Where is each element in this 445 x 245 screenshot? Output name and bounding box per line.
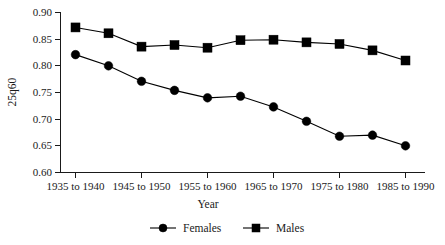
data-point-circle-marker[interactable] — [170, 86, 179, 95]
x-tick-label: 1955 to 1960 — [178, 180, 237, 192]
data-point-circle-marker[interactable] — [302, 117, 311, 126]
data-point-square-marker[interactable] — [170, 41, 179, 50]
legend-label-males: Males — [276, 222, 305, 234]
data-point-circle-marker[interactable] — [137, 77, 146, 86]
legend-circle-marker-icon — [159, 224, 167, 232]
data-point-square-marker[interactable] — [368, 46, 377, 55]
data-point-circle-marker[interactable] — [335, 132, 344, 141]
data-point-circle-marker[interactable] — [236, 92, 245, 101]
y-tick-label: 0.65 — [33, 139, 53, 151]
x-axis-title: Year — [197, 198, 218, 210]
y-tick-label: 0.80 — [33, 59, 53, 71]
y-tick-label: 0.75 — [33, 86, 53, 98]
y-tick-label: 0.85 — [33, 33, 53, 45]
data-point-circle-marker[interactable] — [71, 50, 80, 59]
legend-square-marker-icon — [252, 224, 260, 232]
data-point-square-marker[interactable] — [71, 23, 80, 32]
x-tick-label: 1945 to 1950 — [112, 180, 171, 192]
x-tick-label: 1985 to 1990 — [376, 180, 435, 192]
y-tick-label: 0.90 — [33, 6, 53, 18]
data-point-circle-marker[interactable] — [368, 131, 377, 140]
data-point-square-marker[interactable] — [203, 43, 212, 52]
data-point-square-marker[interactable] — [137, 42, 146, 51]
y-axis-title: 25q60 — [6, 77, 19, 106]
data-point-square-marker[interactable] — [302, 38, 311, 47]
data-point-square-marker[interactable] — [104, 29, 113, 38]
data-point-circle-marker[interactable] — [104, 62, 113, 71]
chart-background — [0, 0, 445, 245]
y-tick-label: 0.60 — [33, 166, 53, 178]
x-tick-label: 1935 to 1940 — [46, 180, 105, 192]
legend-label-females: Females — [183, 222, 222, 234]
chart-figure: 0.90 0.85 0.80 0.75 0.70 0.65 0.60 1935 … — [0, 0, 445, 245]
data-point-square-marker[interactable] — [335, 39, 344, 48]
data-point-square-marker[interactable] — [269, 35, 278, 44]
data-point-square-marker[interactable] — [401, 56, 410, 65]
data-point-square-marker[interactable] — [236, 36, 245, 45]
data-point-circle-marker[interactable] — [203, 94, 212, 103]
line-chart: 0.90 0.85 0.80 0.75 0.70 0.65 0.60 1935 … — [0, 0, 445, 245]
data-point-circle-marker[interactable] — [269, 103, 278, 112]
x-tick-label: 1975 to 1980 — [310, 180, 369, 192]
data-point-circle-marker[interactable] — [401, 142, 410, 151]
y-tick-label: 0.70 — [33, 113, 53, 125]
x-tick-label: 1965 to 1970 — [244, 180, 303, 192]
